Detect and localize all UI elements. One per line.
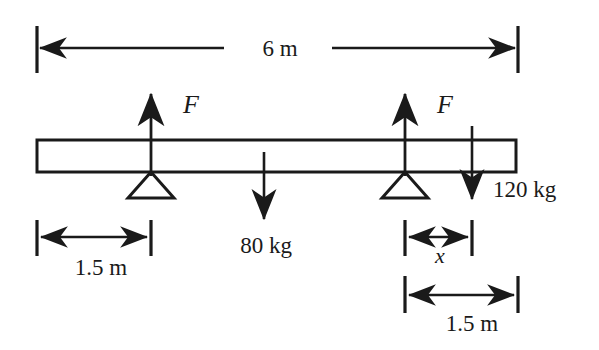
force-label-left: F [182, 90, 200, 119]
dimension-label-x: x [434, 243, 445, 268]
beam-diagram-figure: 6 m F F 80 kg 120 kg [0, 0, 599, 350]
beam-diagram-canvas: 6 m F F 80 kg 120 kg [0, 0, 599, 350]
dimension-overall-span: 6 m [37, 26, 518, 73]
dimension-left-support-offset: 1.5 m [37, 220, 151, 280]
dimension-load-offset-x: x [405, 220, 472, 268]
dimension-label-overall-span: 6 m [262, 36, 297, 61]
dimension-label-right-offset: 1.5 m [446, 311, 499, 336]
load-label-80kg: 80 kg [240, 233, 292, 258]
load-label-120kg: 120 kg [493, 177, 557, 202]
dimension-right-support-to-end: 1.5 m [405, 276, 518, 336]
dimension-label-left-offset: 1.5 m [75, 255, 128, 280]
force-label-right: F [436, 90, 454, 119]
beam-body [37, 140, 516, 172]
